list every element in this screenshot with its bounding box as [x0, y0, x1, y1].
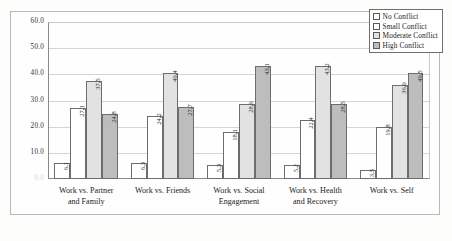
bar-value-label: 28,5 — [339, 102, 346, 114]
bar-value-label: 6,3 — [139, 161, 146, 169]
legend-label: Small Conflict — [383, 22, 427, 31]
x-axis-category-labels: Work vs. Partnerand FamilyWork vs. Frien… — [48, 185, 430, 217]
bar-value-label: 18,1 — [231, 129, 238, 141]
bar[interactable]: 6,1 — [54, 163, 70, 179]
bar-value-label: 43,2 — [323, 63, 330, 75]
bar[interactable]: 37,5 — [86, 81, 102, 179]
bar-group: 5,222,443,228,5 — [277, 22, 353, 179]
bar-value-label: 40,4 — [171, 71, 178, 83]
bar-value-label: 24,8 — [110, 111, 117, 123]
bar[interactable]: 5,3 — [207, 165, 223, 179]
bar[interactable]: 6,3 — [131, 163, 147, 179]
bar[interactable]: 36,0 — [392, 85, 408, 179]
bar-group: 6,324,240,427,7 — [124, 22, 200, 179]
bar-value-label: 40,5 — [416, 70, 423, 82]
bar-value-label: 28,6 — [247, 101, 254, 113]
bar-value-label: 5,3 — [215, 164, 222, 172]
y-axis-tick-label: 40.0 — [4, 70, 44, 77]
bar[interactable]: 18,1 — [223, 132, 239, 179]
bar[interactable]: 43,2 — [315, 66, 331, 179]
y-axis-tick-label: 60.0 — [4, 18, 44, 25]
legend-swatch-icon — [373, 13, 380, 20]
bar[interactable]: 40,5 — [408, 73, 424, 179]
bar[interactable]: 40,4 — [163, 73, 179, 179]
bar-value-label: 27,1 — [78, 105, 85, 117]
y-axis-tick-label: 20.0 — [4, 123, 44, 130]
bar[interactable]: 28,6 — [239, 104, 255, 179]
bar[interactable]: 27,7 — [178, 107, 194, 179]
legend-item[interactable]: Small Conflict — [373, 22, 438, 32]
bar[interactable]: 19,8 — [376, 127, 392, 179]
bar[interactable]: 22,4 — [300, 120, 316, 179]
bar-value-label: 43,1 — [263, 63, 270, 75]
legend-swatch-icon — [373, 32, 380, 39]
y-axis: 60.050.040.030.020.010.00.0 — [0, 22, 44, 179]
bar-group: 6,127,137,524,8 — [48, 22, 124, 179]
bar[interactable]: 43,1 — [255, 66, 271, 179]
legend-item[interactable]: No Conflict — [373, 12, 438, 22]
legend-swatch-icon — [373, 42, 380, 49]
bar[interactable]: 5,2 — [284, 165, 300, 179]
category-label-line: Work vs. Self — [346, 185, 438, 196]
legend-label: Moderate Conflict — [383, 31, 438, 40]
bar-value-label: 19,8 — [384, 124, 391, 136]
y-axis-tick-label: 30.0 — [4, 97, 44, 104]
figure: 60.050.040.030.020.010.00.0 6,127,137,52… — [0, 0, 452, 241]
legend-label: No Conflict — [383, 12, 419, 21]
x-axis-category-label: Work vs. Self — [346, 185, 438, 196]
bar-value-label: 22,4 — [307, 118, 314, 130]
bar-value-label: 27,7 — [186, 104, 193, 116]
y-axis-tick-label: 0.0 — [4, 175, 44, 182]
legend-swatch-icon — [373, 23, 380, 30]
bar[interactable]: 24,2 — [147, 116, 163, 179]
bar-value-label: 37,5 — [94, 78, 101, 90]
bar-value-label: 36,0 — [400, 82, 407, 94]
bar[interactable]: 27,1 — [70, 108, 86, 179]
category-label-line: and Recovery — [270, 196, 362, 207]
legend: No ConflictSmall ConflictModerate Confli… — [369, 9, 443, 53]
bar-value-label: 5,2 — [292, 164, 299, 172]
category-label-line: and Family — [40, 196, 132, 207]
bar-value-label: 3,5 — [368, 169, 375, 177]
bar-value-label: 6,1 — [62, 162, 69, 170]
bar[interactable]: 28,5 — [331, 104, 347, 179]
bar-value-label: 24,2 — [155, 113, 162, 125]
legend-item[interactable]: Moderate Conflict — [373, 31, 438, 41]
legend-label: High Conflict — [383, 41, 425, 50]
y-axis-tick-label: 10.0 — [4, 149, 44, 156]
bar[interactable]: 3,5 — [360, 170, 376, 179]
bar[interactable]: 24,8 — [102, 114, 118, 179]
legend-item[interactable]: High Conflict — [373, 41, 438, 51]
bar-group: 5,318,128,643,1 — [201, 22, 277, 179]
y-axis-tick-label: 50.0 — [4, 44, 44, 51]
